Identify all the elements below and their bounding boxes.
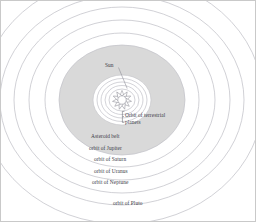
label-sun: Sun xyxy=(105,62,114,68)
label-orbit-saturn: orbit of Saturn xyxy=(94,156,126,162)
sun-core xyxy=(118,96,126,104)
label-terrestrial-orbit-line1: Orbit of terrestrial xyxy=(125,112,165,118)
label-orbit-neptune: orbit of Neptune xyxy=(92,179,128,185)
label-terrestrial-orbit-line2: planets xyxy=(125,119,141,125)
label-orbit-pluto: orbit of Pluto xyxy=(113,200,142,206)
label-asteroid-belt: Asteroid belt xyxy=(91,133,120,139)
label-orbit-uranus: orbit of Uranus xyxy=(94,168,128,174)
solar-system-figure: Sun Orbit of terrestrial planets Asteroi… xyxy=(0,0,256,222)
label-orbit-jupiter: orbit of Jupiter xyxy=(89,145,122,151)
